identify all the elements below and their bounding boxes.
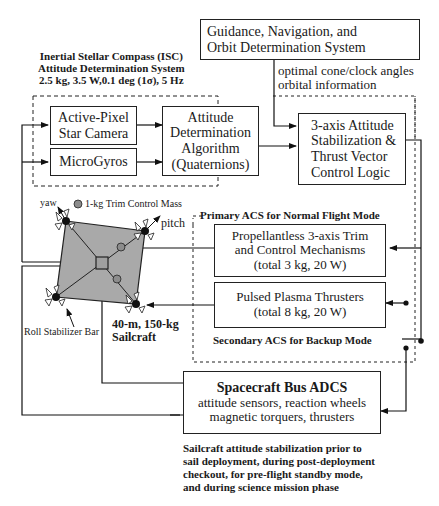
trim-mass-label: 1-kg Trim Control Mass xyxy=(85,198,182,209)
control-logic-box: 3-axis Attitude Stabilization & Thrust V… xyxy=(298,113,406,185)
bus-adcs-box: Spacecraft Bus ADCS attitude sensors, re… xyxy=(183,371,381,434)
pitch-label: pitch xyxy=(161,217,185,230)
primary-acs-box: Propellantless 3-axis Trim and Control M… xyxy=(214,224,386,277)
primary-acs-title: Primary ACS for Normal Flight Mode xyxy=(200,209,380,221)
attitude-determination-algorithm-box: Attitude Determination Algorithm (Quater… xyxy=(162,106,259,176)
isc-title: Inertial Stellar Compass (ISC) Attitude … xyxy=(38,50,185,86)
secondary-acs-box: Pulsed Plasma Thrusters (total 8 kg, 20 … xyxy=(214,282,386,328)
roll-stabilizer-label: Roll Stabilizer Bar xyxy=(24,326,99,337)
sailcraft-caption: 40-m, 150-kg Sailcraft xyxy=(112,318,179,344)
microgyros-box: MicroGyros xyxy=(50,148,137,176)
acs-block-diagram: Inertial Stellar Compass (ISC) Attitude … xyxy=(0,0,439,506)
secondary-acs-title: Secondary ACS for Backup Mode xyxy=(213,334,372,346)
mission-phase-note: Sailcraft attitude stabilization prior t… xyxy=(183,442,375,494)
gnc-link-label: optimal cone/clock angles orbital inform… xyxy=(278,64,414,93)
yaw-label: yaw xyxy=(40,197,57,208)
star-camera-box: Active-Pixel Star Camera xyxy=(50,106,137,145)
gnc-box: Guidance, Navigation, and Orbit Determin… xyxy=(200,19,420,60)
